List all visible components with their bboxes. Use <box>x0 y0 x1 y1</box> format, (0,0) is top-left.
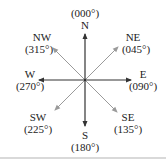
bearing-e: (090°) <box>129 81 157 92</box>
bottom-separator <box>0 157 166 159</box>
label-sw: SW <box>30 112 47 123</box>
bearing-n: (000°) <box>71 8 99 19</box>
label-ne: NE <box>126 32 141 43</box>
bearing-s: (180°) <box>71 142 99 153</box>
arrow-sw <box>55 80 85 110</box>
bearing-se: (135°) <box>114 124 142 135</box>
arrow-se <box>85 80 117 112</box>
bearing-w: (270°) <box>16 81 44 92</box>
bearing-sw: (225°) <box>24 124 52 135</box>
label-e: E <box>140 69 147 80</box>
arrow-ne <box>85 47 118 80</box>
bearing-nw: (315°) <box>25 44 53 55</box>
label-nw: NW <box>33 32 51 43</box>
compass-rose-diagram: (000°) N NE (045°) E (090°) SE (135°) S … <box>0 0 166 164</box>
bearing-ne: (045°) <box>122 44 150 55</box>
label-se: SE <box>122 112 135 123</box>
label-n: N <box>81 20 89 31</box>
label-w: W <box>25 69 35 80</box>
center-point <box>84 79 86 81</box>
arrow-nw <box>53 48 85 80</box>
label-s: S <box>82 130 88 141</box>
